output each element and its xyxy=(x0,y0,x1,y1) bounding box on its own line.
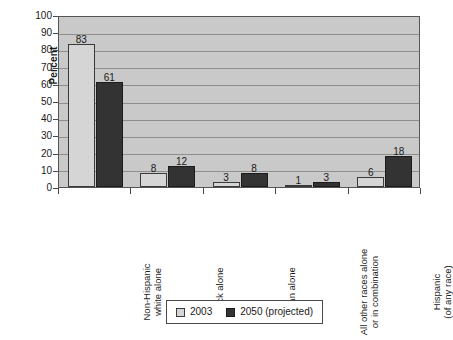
y-axis-tick-label: 80 xyxy=(12,45,52,55)
x-axis-tick-mark xyxy=(130,188,131,194)
bar-2050[interactable]: 61 xyxy=(96,82,123,187)
light-gray-swatch-icon xyxy=(176,308,185,317)
y-axis-tick-label: 90 xyxy=(12,28,52,38)
y-axis-tick-label: 50 xyxy=(12,97,52,107)
gridline xyxy=(59,34,419,35)
x-axis-tick-mark xyxy=(58,188,59,194)
y-axis-tick-label: 60 xyxy=(12,80,52,90)
bar-value-label: 12 xyxy=(176,156,187,167)
bar-value-label: 8 xyxy=(151,163,157,174)
legend-item-2003[interactable]: 2003 xyxy=(176,307,212,317)
bar-value-label: 18 xyxy=(393,146,404,157)
gridline xyxy=(59,68,419,69)
bar-value-label: 6 xyxy=(368,167,374,178)
bar-value-label: 83 xyxy=(76,34,87,45)
bar-value-label: 3 xyxy=(324,172,330,183)
x-axis-tick-mark xyxy=(348,188,349,194)
bar-2050[interactable]: 18 xyxy=(385,156,412,187)
y-axis-tick-label: 40 xyxy=(12,114,52,124)
y-axis-tick-label: 70 xyxy=(12,63,52,73)
x-axis-label: Asian alone xyxy=(287,244,298,340)
x-axis-tick-mark xyxy=(203,188,204,194)
bar-value-label: 3 xyxy=(223,172,229,183)
bar-2050[interactable]: 8 xyxy=(241,173,268,187)
bar-2003[interactable]: 1 xyxy=(285,185,312,187)
y-axis-tick-label: 0 xyxy=(12,183,52,193)
y-axis-tick-label: 10 xyxy=(12,166,52,176)
bar-2050[interactable]: 3 xyxy=(313,182,340,187)
bar-2003[interactable]: 3 xyxy=(213,182,240,187)
x-axis-label: Hispanic (of any race) xyxy=(432,244,453,340)
legend-label: 2003 xyxy=(190,307,212,317)
x-axis-label: Non-Hispanic white alone xyxy=(142,244,163,340)
x-axis-label: Black alone xyxy=(215,244,226,340)
chart-legend: 2003 2050 (projected) xyxy=(166,300,323,324)
x-axis-tick-mark xyxy=(420,188,421,194)
dark-gray-swatch-icon xyxy=(226,308,235,317)
plot-area: 83618123813618 xyxy=(58,16,420,188)
gridline xyxy=(59,51,419,52)
legend-label: 2050 (projected) xyxy=(240,307,313,317)
bar-2003[interactable]: 8 xyxy=(140,173,167,187)
bar-value-label: 8 xyxy=(251,163,257,174)
y-axis-tick-label: 30 xyxy=(12,131,52,141)
x-axis-label: All other races alone or in combination xyxy=(359,244,380,340)
bar-value-label: 61 xyxy=(104,72,115,83)
y-axis-tick-label: 100 xyxy=(12,11,52,21)
bar-2050[interactable]: 12 xyxy=(168,166,195,187)
y-axis-tick-label: 20 xyxy=(12,149,52,159)
bar-2003[interactable]: 83 xyxy=(68,44,95,187)
legend-item-2050[interactable]: 2050 (projected) xyxy=(226,307,313,317)
bar-value-label: 1 xyxy=(296,175,302,186)
x-axis-tick-mark xyxy=(275,188,276,194)
bar-2003[interactable]: 6 xyxy=(357,177,384,187)
